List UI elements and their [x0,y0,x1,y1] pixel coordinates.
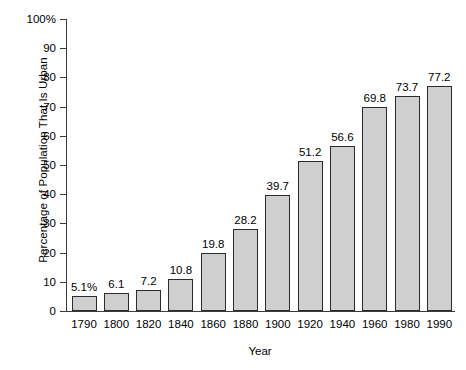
x-axis-tick-label: 1990 [413,318,465,330]
y-axis-tick [60,165,66,166]
y-axis-tick [60,77,66,78]
y-axis-line [66,19,67,312]
bar-chart: Percentage of Population That Is Urban 0… [0,0,466,370]
bar-value-label: 69.8 [349,92,401,104]
bar [233,229,258,311]
bar [362,107,387,311]
bar-value-label: 51.2 [284,146,336,158]
y-axis-tick-label: 80 [0,71,56,83]
bar-value-label: 19.8 [187,238,239,250]
x-axis-title: Year [60,345,460,357]
y-axis-tick-label: 10 [0,276,56,288]
bar-value-label: 39.7 [252,180,304,192]
y-axis-tick [60,223,66,224]
bar [395,96,420,311]
y-axis-tick-label: 100% [0,13,56,25]
bar [427,86,452,311]
y-axis-tick-label: 60 [0,130,56,142]
bar [201,253,226,311]
y-axis-tick-label: 0 [0,305,56,317]
y-axis-tick-label: 30 [0,217,56,229]
y-axis-tick [60,194,66,195]
bar [104,293,129,311]
y-axis-tick [60,48,66,49]
y-axis-tick [60,311,66,312]
y-axis-tick [60,253,66,254]
y-axis-tick [60,136,66,137]
bar-value-label: 10.8 [155,264,207,276]
x-axis-line [66,311,455,312]
bar [136,290,161,311]
bar-value-label: 77.2 [413,71,465,83]
bar [330,146,355,311]
y-axis-tick [60,107,66,108]
y-axis-tick-label: 20 [0,247,56,259]
y-axis-tick [60,19,66,20]
bar [298,161,323,311]
bar [168,279,193,311]
y-axis-tick-label: 40 [0,188,56,200]
bar-value-label: 56.6 [316,131,368,143]
y-axis-tick-label: 70 [0,101,56,113]
bar-value-label: 73.7 [381,81,433,93]
y-axis-tick-label: 90 [0,42,56,54]
bar-value-label: 7.2 [123,275,175,287]
bar [265,195,290,311]
bar-value-label: 28.2 [220,214,272,226]
bar [72,296,97,311]
y-axis-tick-label: 50 [0,159,56,171]
